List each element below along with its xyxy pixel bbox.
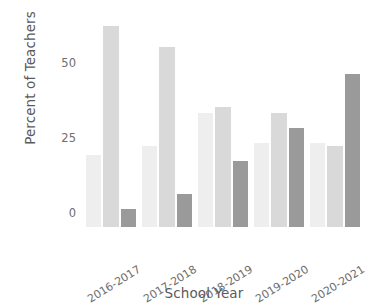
bar-group xyxy=(83,2,139,227)
bar-chart: Percent of Teachers 0255075 2016-2017201… xyxy=(0,0,368,307)
bar[interactable] xyxy=(177,194,193,227)
bar[interactable] xyxy=(271,113,287,227)
bar-group xyxy=(251,2,307,227)
bar-group xyxy=(307,2,363,227)
bar[interactable] xyxy=(233,161,249,227)
bar-group xyxy=(195,2,251,227)
bar[interactable] xyxy=(345,74,361,227)
bar[interactable] xyxy=(215,107,231,227)
x-axis-title: School Year xyxy=(0,285,368,301)
bar[interactable] xyxy=(289,128,305,227)
bar[interactable] xyxy=(159,47,175,227)
y-axis-tick-0: 0 xyxy=(69,206,76,220)
bar[interactable] xyxy=(198,113,214,227)
plot-area: 0255075 xyxy=(83,2,363,227)
bar[interactable] xyxy=(121,209,137,227)
bar[interactable] xyxy=(142,146,158,227)
y-axis-title: Percent of Teachers xyxy=(17,0,43,178)
bar[interactable] xyxy=(310,143,326,227)
y-axis-tick-25: 25 xyxy=(61,131,76,145)
bar[interactable] xyxy=(86,155,102,227)
bar[interactable] xyxy=(327,146,343,227)
bar[interactable] xyxy=(254,143,270,227)
y-axis-tick-50: 50 xyxy=(61,56,76,70)
bar-group xyxy=(139,2,195,227)
bar[interactable] xyxy=(103,26,119,227)
